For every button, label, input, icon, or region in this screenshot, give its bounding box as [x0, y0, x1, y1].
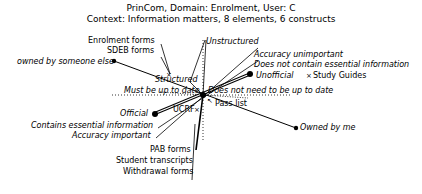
label-owned-by-me: Owned by me — [300, 123, 356, 132]
label-pab-forms: PAB forms — [150, 145, 191, 154]
element-spike-unstructured — [203, 40, 206, 95]
element-marker-ucrf: × — [194, 106, 200, 114]
pole-dot-official — [152, 111, 158, 117]
element-line-pab — [196, 95, 203, 150]
pole-dot-unofficial — [247, 71, 253, 77]
label-ucrf: UCRF — [173, 105, 195, 114]
label-no-essential-info: Does not contain essential information — [254, 60, 409, 69]
label-pass-list: Pass list — [215, 99, 247, 108]
element-marker-pass-list: ↖ — [207, 97, 213, 105]
element-marker-study-guides: × — [306, 72, 312, 80]
label-unofficial: Unofficial — [256, 71, 294, 80]
label-structured: Structured — [155, 75, 198, 84]
label-accuracy-unimportant: Accuracy unimportant — [253, 50, 344, 59]
label-accuracy-important: Accuracy important — [71, 131, 152, 140]
pole-dot-owned-me — [294, 126, 298, 130]
origin-hub — [200, 92, 206, 98]
principal-components-plot: × × × ↖ Enrolment forms SDEB forms owned… — [0, 0, 422, 194]
label-study-guides: Study Guides — [313, 71, 366, 80]
label-no-need-up-to-date: Does not need to be up to date — [208, 86, 333, 95]
label-contains-essential-info: Contains essential information — [31, 121, 153, 130]
label-withdrawal-forms: Withdrawal forms — [123, 167, 193, 176]
label-must-be-up-to-date: Must be up to date — [124, 86, 200, 95]
label-sdeb-forms: SDEB forms — [107, 46, 154, 55]
label-unstructured: Unstructured — [206, 37, 259, 46]
label-student-transcripts: Student transcripts — [116, 156, 193, 165]
label-official: Official — [120, 109, 149, 118]
label-enrolment-forms: Enrolment forms — [88, 36, 155, 45]
label-owned-by-someone-else: owned by someone else — [17, 57, 114, 66]
